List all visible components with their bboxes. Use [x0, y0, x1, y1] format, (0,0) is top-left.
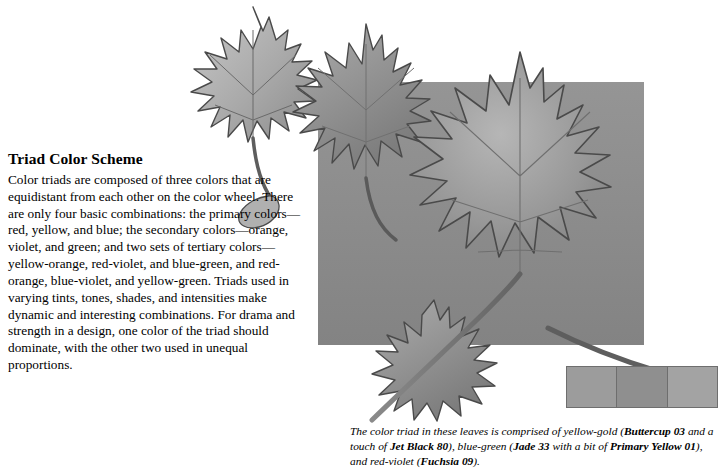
- body-paragraph: Color triads are composed of three color…: [8, 172, 308, 374]
- caption-mid-3: with a bit of: [550, 440, 610, 452]
- page-title: Triad Color Scheme: [8, 150, 308, 168]
- article-text-block: Triad Color Scheme Color triads are comp…: [8, 150, 308, 374]
- caption-tail: ).: [473, 455, 480, 467]
- color-swatch-3: [668, 367, 717, 407]
- caption-color-3: Jade 33: [513, 440, 549, 452]
- color-swatch-1: [567, 367, 617, 407]
- caption-color-1: Buttercup 03: [624, 425, 685, 437]
- caption-lead: The color triad in these leaves is compr…: [350, 425, 624, 437]
- leaf-upper-left: [191, 7, 317, 142]
- color-swatch-2: [617, 367, 667, 407]
- caption-color-2: Jet Black 80: [390, 440, 448, 452]
- color-swatch-strip: [566, 366, 718, 408]
- caption-color-4: Primary Yellow 01: [610, 440, 696, 452]
- caption-color-5: Fuchsia 09: [420, 455, 473, 467]
- figure-caption: The color triad in these leaves is compr…: [350, 424, 718, 468]
- caption-mid-2: ), blue-green (: [448, 440, 513, 452]
